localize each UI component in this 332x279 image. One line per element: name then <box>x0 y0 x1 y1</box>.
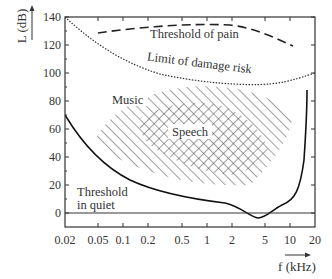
x-axis-title: f (kHz) <box>278 253 316 275</box>
svg-text:f (kHz): f (kHz) <box>278 259 316 274</box>
threshold-in-quiet-label-line1: Threshold <box>77 185 128 199</box>
svg-text:10: 10 <box>284 233 296 247</box>
svg-text:40: 40 <box>49 150 61 164</box>
svg-text:2: 2 <box>229 233 235 247</box>
svg-text:0.5: 0.5 <box>175 233 190 247</box>
svg-text:20: 20 <box>49 178 61 192</box>
svg-text:0.1: 0.1 <box>116 233 131 247</box>
threshold-in-quiet-label-line2: in quiet <box>77 198 115 212</box>
svg-text:0.2: 0.2 <box>141 233 156 247</box>
svg-text:1: 1 <box>204 233 210 247</box>
y-tick-labels: 140 120 100 80 60 40 20 0 <box>43 10 61 220</box>
hearing-range-chart: 140 120 100 80 60 40 20 0 0.02 0.05 0.1 … <box>0 0 332 279</box>
svg-text:80: 80 <box>49 94 61 108</box>
svg-text:140: 140 <box>43 10 61 24</box>
svg-text:0.02: 0.02 <box>55 233 76 247</box>
y-axis-title: L (dB) <box>14 5 35 43</box>
threshold-of-pain-label: Threshold of pain <box>150 27 240 41</box>
x-tick-labels: 0.02 0.05 0.1 0.2 0.5 1 2 5 10 20 <box>55 233 322 247</box>
svg-text:100: 100 <box>43 66 61 80</box>
svg-text:60: 60 <box>49 122 61 136</box>
svg-text:20: 20 <box>309 233 321 247</box>
speech-label: Speech <box>172 125 209 139</box>
svg-text:0: 0 <box>55 206 61 220</box>
svg-text:5: 5 <box>262 233 268 247</box>
limit-of-damage-risk-label: Limit of damage risk <box>146 50 253 77</box>
svg-text:L (dB): L (dB) <box>14 9 29 44</box>
music-label: Music <box>112 93 144 107</box>
svg-text:0.05: 0.05 <box>88 233 109 247</box>
svg-text:120: 120 <box>43 38 61 52</box>
